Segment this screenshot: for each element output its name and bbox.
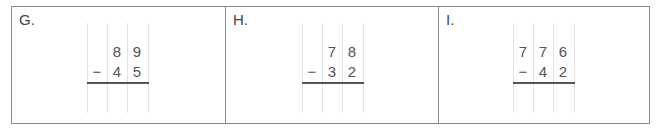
problem-label: H. bbox=[233, 11, 248, 28]
minus-sign: − bbox=[87, 63, 107, 80]
digit-cell: 7 bbox=[322, 43, 342, 60]
problem-label: G. bbox=[19, 11, 35, 28]
answer-rule bbox=[302, 82, 364, 84]
grid-line bbox=[148, 23, 149, 113]
digit-cell: 7 bbox=[533, 43, 553, 60]
problem-label: I. bbox=[446, 11, 454, 28]
grid-line bbox=[574, 23, 575, 113]
subtraction-grid: 7 8 − 3 2 bbox=[302, 23, 364, 113]
panel-divider bbox=[225, 6, 226, 124]
digit-cell: 8 bbox=[342, 43, 362, 60]
digit-cell: 4 bbox=[107, 63, 127, 80]
digit-cell: 8 bbox=[107, 43, 127, 60]
answer-rule bbox=[87, 82, 149, 84]
digit-cell: 6 bbox=[553, 43, 573, 60]
digit-cell: 2 bbox=[553, 63, 573, 80]
digit-cell: 4 bbox=[533, 63, 553, 80]
digit-cell: 3 bbox=[322, 63, 342, 80]
panel-divider bbox=[438, 6, 439, 124]
answer-rule bbox=[513, 82, 575, 84]
minus-sign: − bbox=[513, 63, 533, 80]
minus-sign: − bbox=[302, 63, 322, 80]
digit-cell: 7 bbox=[513, 43, 533, 60]
subtraction-grid: 8 9 − 4 5 bbox=[87, 23, 149, 113]
digit-cell: 5 bbox=[127, 63, 147, 80]
subtraction-grid: 7 7 6 − 4 2 bbox=[513, 23, 575, 113]
digit-cell: 2 bbox=[342, 63, 362, 80]
grid-line bbox=[363, 23, 364, 113]
digit-cell: 9 bbox=[127, 43, 147, 60]
